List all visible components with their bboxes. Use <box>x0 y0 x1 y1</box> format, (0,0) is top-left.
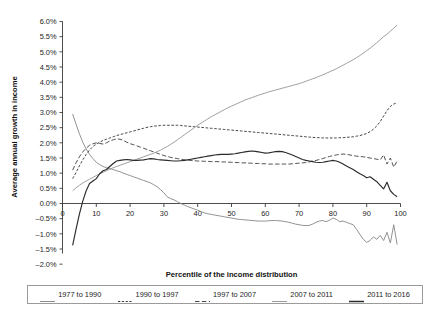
x-tick-label: 100 <box>394 209 406 218</box>
y-tick-label: 1.0% <box>40 169 57 178</box>
y-tick-label: 5.5% <box>40 32 57 41</box>
series-line-1977-to-1990 <box>73 114 397 244</box>
figure-container: 6.0%5.5%5.0%4.5%4.0%3.5%3.0%2.5%2.0%1.5%… <box>0 0 433 325</box>
legend-item[interactable]: 2007 to 2011 <box>272 291 333 298</box>
series-line-2007-to-2011 <box>73 25 397 191</box>
x-axis-title: Percentile of the income distribution <box>166 270 298 279</box>
x-tick-label: 20 <box>126 209 134 218</box>
y-tick-label: 6.0% <box>40 17 57 26</box>
legend-item[interactable]: 1977 to 1990 <box>40 291 101 298</box>
legend-swatch-icon <box>40 291 55 298</box>
series-line-1997-to-2007 <box>73 139 397 170</box>
legend-item[interactable]: 1997 to 2007 <box>195 291 256 298</box>
y-tick-label: 4.5% <box>40 63 57 72</box>
x-tick-label: 60 <box>261 209 269 218</box>
legend-label: 2011 to 2016 <box>367 291 410 298</box>
x-tick-label: 80 <box>329 209 337 218</box>
y-tick-label: 0.5% <box>40 184 57 193</box>
y-tick-label: 2.0% <box>40 139 57 148</box>
y-tick-label: 2.5% <box>40 123 57 132</box>
legend-swatch-icon <box>272 291 287 298</box>
y-tick-label: –2.0% <box>36 260 57 269</box>
y-tick-label: 1.5% <box>40 154 57 163</box>
legend-label: 1990 to 1997 <box>136 291 179 298</box>
x-tick-label: 10 <box>92 209 100 218</box>
legend-swatch-icon <box>118 291 133 298</box>
y-axis-title: Average annual growth in income <box>10 76 19 197</box>
legend-item[interactable]: 1990 to 1997 <box>118 291 179 298</box>
legend-swatch-icon <box>195 291 210 298</box>
y-tick-label: –1.5% <box>36 245 57 254</box>
y-tick-label: 3.5% <box>40 93 57 102</box>
y-tick-label: –0.5% <box>36 214 57 223</box>
line-chart: 6.0%5.5%5.0%4.5%4.0%3.5%3.0%2.5%2.0%1.5%… <box>0 0 433 325</box>
legend-label: 1977 to 1990 <box>58 291 101 298</box>
legend-swatch-icon <box>349 291 364 298</box>
y-tick-label: 4.0% <box>40 78 57 87</box>
legend-label: 2007 to 2011 <box>290 291 333 298</box>
x-tick-label: 50 <box>227 209 235 218</box>
y-tick-label: –1.0% <box>36 230 57 239</box>
chart-legend: 1977 to 19901990 to 19971997 to 20072007… <box>27 285 423 304</box>
legend-label: 1997 to 2007 <box>213 291 256 298</box>
x-tick-label: 90 <box>363 209 371 218</box>
x-tick-label: 70 <box>295 209 303 218</box>
y-tick-label: 0.0% <box>40 199 57 208</box>
y-tick-label: 3.0% <box>40 108 57 117</box>
y-tick-label: 5.0% <box>40 48 57 57</box>
legend-item[interactable]: 2011 to 2016 <box>349 291 410 298</box>
x-axis-ticks: 0102030405060708090100 <box>60 204 406 218</box>
y-axis-ticks: 6.0%5.5%5.0%4.5%4.0%3.5%3.0%2.5%2.0%1.5%… <box>36 17 63 269</box>
x-tick-label: 30 <box>160 209 168 218</box>
